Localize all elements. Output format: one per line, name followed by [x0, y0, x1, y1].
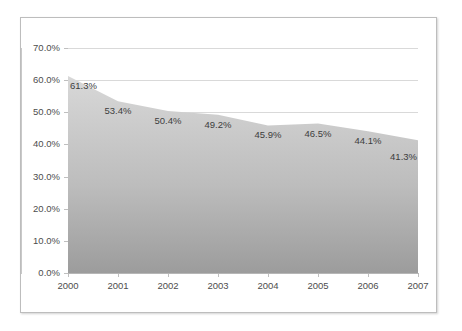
y-axis-tick-label: 50.0% [33, 107, 60, 117]
y-axis-tick-label: 30.0% [33, 172, 60, 182]
x-axis-tick-mark [418, 274, 419, 277]
data-label-2004: 45.9% [255, 129, 282, 140]
x-axis-tick-label-2001: 2001 [107, 280, 128, 291]
chart-frame: 70.0%60.0%50.0%40.0%30.0%20.0%10.0%0.0% … [20, 17, 437, 313]
x-axis-tick-mark [368, 274, 369, 277]
x-axis-tick-label-2006: 2006 [357, 280, 378, 291]
x-axis-tick-mark [218, 274, 219, 277]
data-label-2002: 50.4% [155, 115, 182, 126]
x-axis-tick-label-2003: 2003 [207, 280, 228, 291]
x-axis-tick-mark [318, 274, 319, 277]
x-axis-tick-label-2004: 2004 [257, 280, 278, 291]
y-axis-tick-label: 70.0% [33, 43, 60, 53]
x-axis-tick-label-2002: 2002 [157, 280, 178, 291]
y-axis-tick-label: 0.0% [38, 268, 60, 278]
plot-area: 61.3%53.4%50.4%49.2%45.9%46.5%44.1%41.3% [68, 48, 418, 273]
x-axis-tick-mark [68, 274, 69, 277]
y-axis-tick-label: 60.0% [33, 75, 60, 85]
y-axis-tick-label: 10.0% [33, 236, 60, 246]
data-label-2001: 53.4% [105, 105, 132, 116]
data-label-2007: 41.3% [390, 151, 417, 162]
data-label-2005: 46.5% [305, 128, 332, 139]
x-axis-tick-mark [118, 274, 119, 277]
x-axis-line [68, 273, 419, 274]
x-axis-tick-mark [168, 274, 169, 277]
y-axis-line [21, 48, 22, 274]
area-series-chart [68, 48, 418, 273]
data-label-2003: 49.2% [205, 119, 232, 130]
x-axis-tick-mark [268, 274, 269, 277]
plot-wrapper: 70.0%60.0%50.0%40.0%30.0%20.0%10.0%0.0% … [21, 18, 436, 312]
y-axis-tick-label: 20.0% [33, 204, 60, 214]
x-axis-tick-label-2000: 2000 [57, 280, 78, 291]
data-label-2006: 44.1% [355, 135, 382, 146]
data-label-2000: 61.3% [70, 80, 97, 91]
y-axis-tick-label: 40.0% [33, 139, 60, 149]
x-axis-tick-label-2007: 2007 [407, 280, 428, 291]
x-axis-tick-label-2005: 2005 [307, 280, 328, 291]
